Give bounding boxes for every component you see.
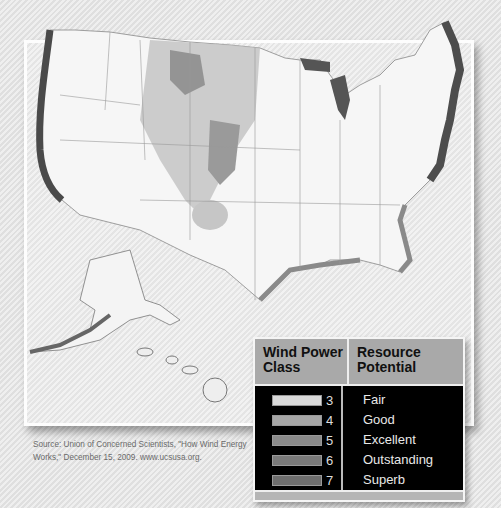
class-number: 3 xyxy=(326,393,333,408)
header-class-line2: Class xyxy=(263,359,300,375)
potential-label: Fair xyxy=(363,390,433,410)
legend-header-potential: Resource Potential xyxy=(349,339,421,384)
swatch-class-6 xyxy=(272,455,322,466)
legend-class-column: 3 4 5 6 7 xyxy=(255,386,343,490)
hawaii xyxy=(137,348,227,402)
potential-label: Good xyxy=(363,410,433,430)
legend-header: Wind Power Class Resource Potential xyxy=(255,339,463,386)
class-number: 5 xyxy=(326,433,333,448)
swatch-class-4 xyxy=(272,415,322,426)
source-citation: Source: Union of Concerned Scientists, "… xyxy=(33,438,263,464)
potential-label: Excellent xyxy=(363,430,433,450)
swatch-class-5 xyxy=(272,435,322,446)
class-number: 4 xyxy=(326,413,333,428)
alaska xyxy=(30,250,180,352)
header-class-line1: Wind Power xyxy=(263,344,343,360)
wind-power-legend: Wind Power Class Resource Potential 3 4 … xyxy=(253,337,465,502)
potential-label: Outstanding xyxy=(363,450,433,470)
swatch-class-3 xyxy=(272,395,322,406)
potential-label: Superb xyxy=(363,470,433,490)
class-number: 7 xyxy=(326,473,333,488)
legend-header-class: Wind Power Class xyxy=(255,339,349,384)
swatch-class-7 xyxy=(272,475,322,486)
header-potential-line2: Potential xyxy=(357,359,416,375)
legend-footer xyxy=(255,490,463,500)
legend-potential-column: Fair Good Excellent Outstanding Superb xyxy=(343,386,433,490)
header-potential-line1: Resource xyxy=(357,344,421,360)
class-number: 6 xyxy=(326,453,333,468)
